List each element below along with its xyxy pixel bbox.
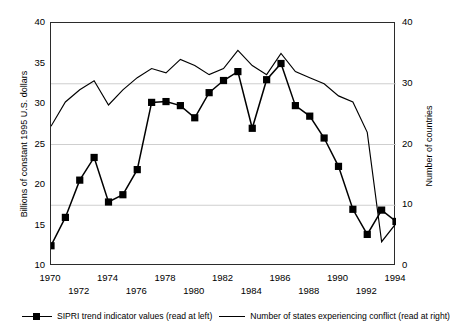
y-axis-right-tick-label: 40 xyxy=(402,16,428,27)
data-point-marker xyxy=(277,60,284,67)
data-point-marker xyxy=(119,191,126,198)
data-point-marker xyxy=(76,177,83,184)
x-axis-tick-label: 1980 xyxy=(174,285,214,296)
x-axis-tick-label: 1992 xyxy=(346,285,386,296)
y-axis-right-tick-label: 30 xyxy=(402,77,428,88)
y-axis-left-tick-label: 30 xyxy=(19,97,45,108)
legend-item-conflict: Number of states experiencing conflict (… xyxy=(219,311,450,321)
data-point-marker xyxy=(234,68,241,75)
data-point-marker xyxy=(349,206,356,213)
data-point-marker xyxy=(206,89,213,96)
data-point-marker xyxy=(134,166,141,173)
legend-item-sipri: SIPRI trend indicator values (read at le… xyxy=(22,311,212,321)
y-axis-right-tick-label: 10 xyxy=(402,198,428,209)
data-point-marker xyxy=(220,77,227,84)
gridlines xyxy=(51,84,396,206)
legend-marker-sipri-icon xyxy=(22,312,52,321)
plot-area xyxy=(50,22,395,265)
legend-label-conflict: Number of states experiencing conflict (… xyxy=(250,311,450,321)
data-point-marker xyxy=(148,99,155,106)
legend-line-conflict-icon xyxy=(219,312,245,321)
y-axis-left-tick-label: 20 xyxy=(19,178,45,189)
x-axis-tick-label: 1972 xyxy=(59,285,99,296)
data-point-marker xyxy=(105,198,112,205)
x-axis-tick-label: 1978 xyxy=(145,272,185,283)
series-sipri-line xyxy=(51,60,396,249)
x-axis-tick-label: 1976 xyxy=(116,285,156,296)
x-axis-tick-label: 1986 xyxy=(260,272,300,283)
data-point-marker xyxy=(306,113,313,120)
data-point-marker xyxy=(335,163,342,170)
y-axis-right-tick-label: 20 xyxy=(402,138,428,149)
plot-svg xyxy=(51,23,396,266)
data-point-marker xyxy=(177,102,184,109)
x-axis-tick-label: 1990 xyxy=(318,272,358,283)
legend-label-sipri: SIPRI trend indicator values (read at le… xyxy=(57,311,212,321)
data-point-marker xyxy=(321,134,328,141)
data-line xyxy=(51,64,396,246)
x-axis-tick-label: 1974 xyxy=(88,272,128,283)
data-point-marker xyxy=(249,125,256,132)
x-axis-tick-label: 1982 xyxy=(203,272,243,283)
data-point-marker xyxy=(292,102,299,109)
data-point-marker xyxy=(392,218,396,225)
x-axis-tick-label: 1988 xyxy=(289,285,329,296)
data-point-marker xyxy=(364,231,371,238)
x-axis-tick-label: 1984 xyxy=(231,285,271,296)
data-point-marker xyxy=(62,214,69,221)
y-axis-left-tick-label: 10 xyxy=(19,259,45,270)
y-axis-left-tick-label: 40 xyxy=(19,16,45,27)
data-point-marker xyxy=(191,114,198,121)
y-axis-left-tick-label: 35 xyxy=(19,57,45,68)
data-point-marker xyxy=(162,98,169,105)
y-axis-left-tick-label: 25 xyxy=(19,138,45,149)
data-point-marker xyxy=(263,76,270,83)
chart-legend: SIPRI trend indicator values (read at le… xyxy=(22,308,432,324)
y-axis-right-tick-label: 0 xyxy=(402,259,428,270)
data-point-marker xyxy=(91,154,98,161)
data-point-marker xyxy=(51,242,55,249)
x-axis-tick-label: 1994 xyxy=(375,272,415,283)
y-axis-left-tick-label: 15 xyxy=(19,219,45,230)
x-axis-tick-label: 1970 xyxy=(30,272,70,283)
data-point-marker xyxy=(378,207,385,214)
